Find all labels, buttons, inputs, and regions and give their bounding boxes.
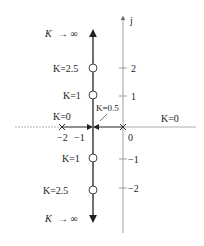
- imag-axis-label: j: [129, 15, 133, 26]
- k-label-0-left: K=0: [53, 111, 71, 122]
- root-locus-diagram: j 2 1 −1 −2 K → ∞ K=2.5 K=1 K=0.5 K=0 K=…: [0, 0, 204, 246]
- k-infinity-top-k: K: [44, 28, 53, 39]
- tick-label-m2: −2: [128, 183, 139, 194]
- k-label-2.5-bottom: K=2.5: [43, 185, 68, 196]
- k-label-0-right: K=0: [161, 113, 179, 124]
- real-tick-0: 0: [128, 132, 133, 143]
- tick-label-2: 2: [131, 63, 136, 74]
- k-label-2.5-top: K=2.5: [53, 63, 78, 74]
- k-label-1-top: K=1: [63, 90, 81, 101]
- k-infinity-bottom-k: K: [44, 213, 53, 224]
- real-tick-m1: −1: [74, 132, 85, 143]
- tick-label-m1: −1: [128, 154, 139, 165]
- tick-label-1: 1: [131, 91, 136, 102]
- k-label-1-bottom: K=1: [62, 153, 80, 164]
- real-tick-m2: −2: [57, 132, 68, 143]
- k-infinity-bottom-rest: → ∞: [58, 213, 78, 224]
- k-label-0.5: K=0.5: [96, 103, 119, 113]
- k-infinity-top-rest: → ∞: [58, 28, 78, 39]
- k05-leader-line: [100, 114, 107, 121]
